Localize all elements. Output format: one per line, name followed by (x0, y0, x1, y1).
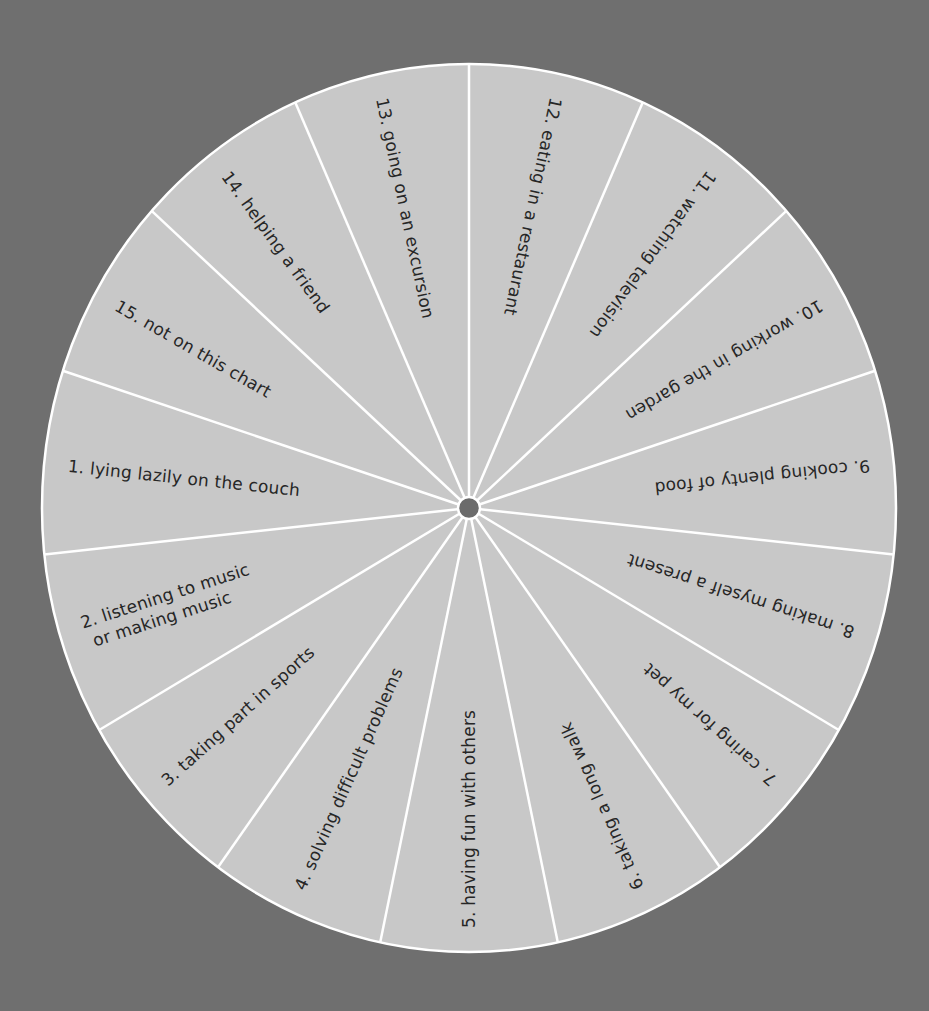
segment-label-text: 5. having fun with others (459, 710, 479, 928)
segment-label-5: 5. having fun with others (459, 710, 479, 928)
activity-wheel: 12. eating in a restaurant11. watching t… (0, 0, 929, 1011)
wheel-hub (458, 497, 480, 519)
activity-wheel-diagram: 12. eating in a restaurant11. watching t… (0, 0, 929, 1011)
